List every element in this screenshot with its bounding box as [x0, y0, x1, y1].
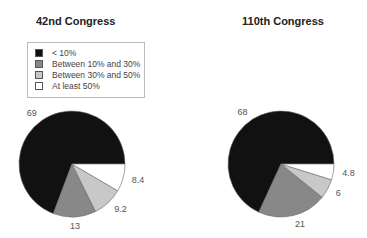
pie-value-label: 68 [238, 107, 248, 117]
pie-value-label: 4.8 [342, 168, 355, 178]
pie-value-label: 21 [295, 219, 305, 229]
pie-value-label: 6 [336, 188, 341, 198]
pie-value-label: 69 [27, 108, 37, 118]
pie-charts: 69139.28.4682164.8 [0, 0, 367, 238]
pie-value-label: 13 [70, 221, 80, 231]
pie-value-label: 9.2 [114, 204, 127, 214]
pie-value-label: 8.4 [132, 175, 145, 185]
